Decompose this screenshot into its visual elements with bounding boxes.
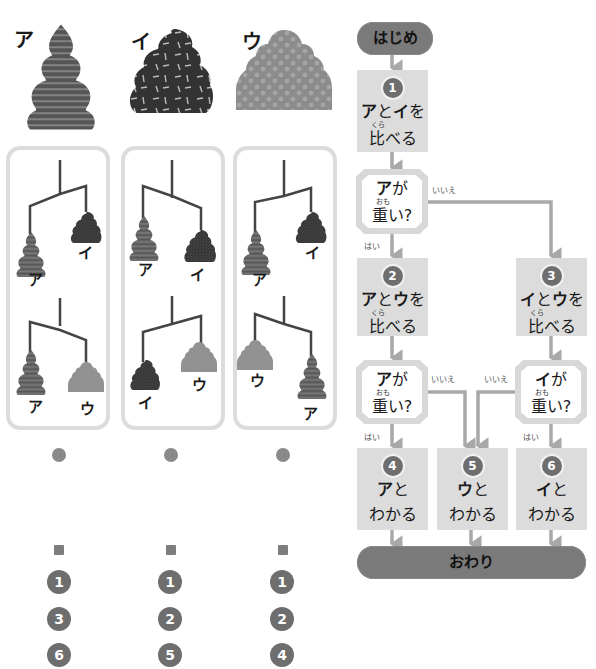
flow-decision-1: アが おも 重い?	[356, 169, 428, 234]
step-1-badge: 1	[381, 76, 405, 100]
flow-step-1: 1 アとイを くら 比べる	[357, 70, 428, 152]
flow-decision-3: イが おも 重い?	[515, 360, 587, 424]
step-5-result: わかる	[437, 505, 508, 525]
flow-step-4: 4 アと わかる	[357, 448, 428, 530]
flow-decision-2: アが おも 重い?	[356, 360, 428, 424]
flow-step-6: 6 イと わかる	[516, 448, 587, 530]
decision-3-no-label: いいえ	[484, 373, 508, 384]
step-6-result: わかる	[516, 505, 587, 525]
step-2-action: 比べる	[357, 317, 428, 337]
decision-1-ruby: おも	[362, 199, 422, 206]
step-1-subject-b: イ	[393, 102, 409, 121]
decision-3-question: 重い?	[521, 397, 581, 417]
step-1-subject-a: ア	[361, 102, 377, 121]
step-1-ruby: くら	[357, 122, 428, 129]
decision-1-no-label: いいえ	[432, 184, 456, 195]
decision-3-yes-label: はい	[523, 431, 539, 442]
decision-2-no-label: いいえ	[431, 373, 455, 384]
decision-2-question: 重い?	[362, 397, 422, 417]
step-3-action: 比べる	[516, 317, 587, 337]
step-4-result: わかる	[357, 505, 428, 525]
step-5-badge: 5	[461, 454, 485, 478]
flow-step-5: 5 ウと わかる	[437, 448, 508, 530]
flow-step-2: 2 アとウを くら 比べる	[357, 258, 428, 336]
flow-step-3: 3 イとウを くら 比べる	[516, 258, 587, 336]
decision-1-question: 重い?	[362, 206, 422, 226]
step-4-badge: 4	[381, 454, 405, 478]
step-6-badge: 6	[540, 454, 564, 478]
flow-start-terminal: はじめ	[357, 22, 433, 55]
decision-1-subject: ア	[376, 179, 392, 198]
flow-end-terminal: おわり	[357, 546, 586, 579]
step-3-badge: 3	[540, 264, 564, 288]
decision-2-yes-label: はい	[364, 431, 380, 442]
step-2-badge: 2	[381, 264, 405, 288]
step-1-action: 比べる	[357, 129, 428, 149]
decision-1-yes-label: はい	[364, 240, 380, 251]
